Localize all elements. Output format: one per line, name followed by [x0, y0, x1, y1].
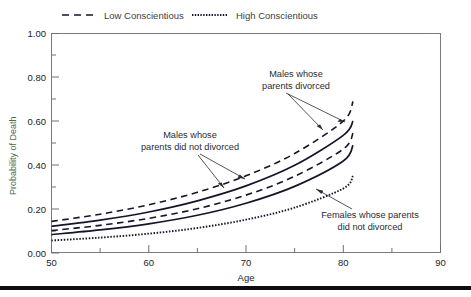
- x-tick-label: 50: [46, 257, 57, 268]
- annotation-line: did not divorced: [338, 222, 403, 232]
- annotation-line: Males whose: [269, 69, 323, 79]
- leader-line: [288, 94, 323, 130]
- y-axis-title: Probability of Death: [8, 116, 18, 195]
- chart-figure: Low Conscientious High Conscientious 0.0…: [0, 0, 471, 297]
- x-tick-label: 70: [241, 257, 252, 268]
- arrowhead: [317, 125, 324, 131]
- annotation-line: parents divorced: [262, 81, 330, 91]
- y-tick-label: 0.80: [28, 72, 47, 83]
- bottom-rule: [0, 286, 471, 290]
- annotation-males-divorced: Males whose parents divorced: [262, 69, 345, 130]
- y-tick-label: 0.40: [28, 160, 47, 171]
- annotation-line: parents did not divorced: [141, 142, 239, 152]
- leader-line: [286, 93, 345, 122]
- legend-label-low-conscientious: Low Conscientious: [104, 10, 184, 21]
- x-tick-label: 80: [338, 257, 349, 268]
- chart-legend: Low Conscientious High Conscientious: [62, 10, 318, 21]
- x-axis: 50 60 70 80 90 Age: [46, 245, 446, 283]
- series-curve: [52, 101, 353, 221]
- y-tick-label: 1.00: [28, 28, 47, 39]
- chart-series-group: [52, 101, 353, 240]
- x-tick-label: 90: [435, 257, 446, 268]
- annotation-line: Females whose parents: [321, 210, 419, 220]
- annotation-females-not-divorced: Females whose parents did not divorced: [316, 189, 419, 232]
- y-tick-label: 0.60: [28, 116, 47, 127]
- x-tick-label: 60: [144, 257, 155, 268]
- annotation-line: Males whose: [163, 130, 217, 140]
- arrowhead: [316, 189, 323, 194]
- y-tick-label: 0.00: [28, 248, 47, 259]
- legend-label-high-conscientious: High Conscientious: [236, 10, 318, 21]
- y-tick-label: 0.20: [28, 204, 47, 215]
- x-axis-title: Age: [238, 272, 255, 283]
- annotation-males-not-divorced: Males whose parents did not divorced: [141, 130, 245, 188]
